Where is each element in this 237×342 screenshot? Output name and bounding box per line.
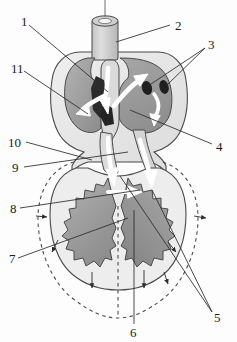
label-11: 11 (11, 62, 24, 75)
leader-2 (116, 25, 170, 42)
label-5: 5 (214, 311, 221, 324)
label-10: 10 (8, 136, 21, 149)
diagram-canvas: 1 2 3 4 5 6 7 8 9 10 11 (0, 0, 237, 342)
label-6: 6 (130, 326, 137, 339)
label-8: 8 (10, 202, 17, 215)
label-3: 3 (208, 38, 215, 51)
label-1: 1 (21, 15, 28, 28)
label-9: 9 (12, 161, 19, 174)
anatomy-illustration (0, 0, 237, 342)
trachea (92, 0, 118, 60)
label-2: 2 (175, 19, 182, 32)
label-7: 7 (9, 252, 16, 265)
label-4: 4 (216, 140, 223, 153)
